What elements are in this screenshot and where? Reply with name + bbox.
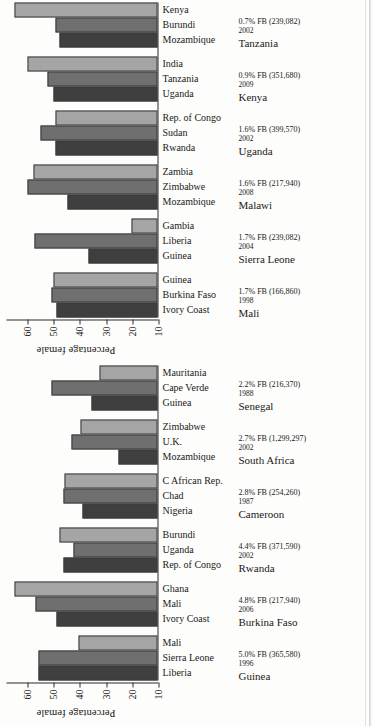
chart-top-bar-groups bbox=[6, 2, 157, 317]
axis-tick-label: 10 bbox=[153, 689, 163, 699]
category-label-text: Sierra Leone bbox=[162, 653, 213, 663]
category-label-text: Ghana bbox=[162, 584, 188, 594]
category-label: Rwanda bbox=[160, 140, 234, 155]
survey-country: Senegal bbox=[238, 400, 273, 411]
category-label-text: Mali bbox=[162, 599, 181, 609]
bar bbox=[55, 110, 157, 125]
bar bbox=[53, 272, 157, 287]
category-label: Zimbabwe bbox=[160, 419, 234, 434]
category-label-text: Kenya bbox=[162, 5, 188, 15]
bar bbox=[35, 596, 157, 611]
bar bbox=[91, 395, 157, 410]
axis-tick-label: 30 bbox=[101, 326, 111, 336]
survey-percent-foreign-born: 0.7% FB (239,082) bbox=[238, 17, 300, 25]
bar-group bbox=[6, 527, 157, 572]
survey-year: 2008 bbox=[238, 188, 253, 196]
category-label: Mali bbox=[160, 596, 234, 611]
axis-tick bbox=[27, 682, 28, 687]
bar bbox=[63, 557, 157, 572]
survey-block: Malawi20081.6% FB (217,940) bbox=[238, 164, 364, 209]
category-label-text: Guinea bbox=[162, 275, 191, 285]
bar bbox=[53, 86, 157, 101]
bar bbox=[88, 248, 157, 263]
category-label-group: NigeriaChadC African Rep. bbox=[160, 473, 234, 518]
category-label: Sierra Leone bbox=[160, 650, 234, 665]
category-label-text: Guinea bbox=[162, 251, 191, 261]
category-label: Sudan bbox=[160, 125, 234, 140]
category-label-group: UgandaTanzaniaIndia bbox=[160, 56, 234, 101]
category-label-group: MozambiqueBurundiKenya bbox=[160, 2, 234, 47]
survey-percent-foreign-born: 0.9% FB (351,680) bbox=[238, 71, 300, 79]
category-label: Burundi bbox=[160, 17, 234, 32]
axis-tick-label: 40 bbox=[74, 689, 84, 699]
bar bbox=[27, 56, 157, 71]
category-label-text: Zimbabwe bbox=[162, 422, 205, 432]
category-label: Guinea bbox=[160, 395, 234, 410]
bar bbox=[27, 179, 157, 194]
category-label-text: Ivory Coast bbox=[162, 305, 209, 315]
category-label: Ghana bbox=[160, 581, 234, 596]
category-label: Mozambique bbox=[160, 32, 234, 47]
bar bbox=[38, 665, 157, 680]
category-label: U.K. bbox=[160, 434, 234, 449]
bar bbox=[118, 449, 157, 464]
axis-tick bbox=[158, 682, 159, 687]
bar bbox=[131, 218, 157, 233]
category-label: Nigeria bbox=[160, 503, 234, 518]
bar bbox=[33, 164, 157, 179]
chart-top-plot-area: Percentage female 102030405060 Ivory Coa… bbox=[0, 0, 372, 363]
category-label-text: Burundi bbox=[162, 530, 195, 540]
chart-bottom-category-labels: LiberiaSierra LeoneMaliIvory CoastMaliGh… bbox=[160, 365, 234, 680]
bar bbox=[73, 542, 157, 557]
survey-block: Sierra Leone20041.7% FB (239,082) bbox=[238, 218, 364, 263]
category-label: Burkina Faso bbox=[160, 287, 234, 302]
survey-block: Mali19981.7% FB (166,860) bbox=[238, 272, 364, 317]
axis-tick-label: 60 bbox=[22, 689, 32, 699]
category-label: Ivory Coast bbox=[160, 611, 234, 626]
category-label: Zambia bbox=[160, 164, 234, 179]
category-label: Zimbabwe bbox=[160, 179, 234, 194]
survey-block: Uganda20021.6% FB (399,570) bbox=[238, 110, 364, 155]
category-label: Guinea bbox=[160, 248, 234, 263]
chart-bottom-y-axis: 102030405060 bbox=[6, 682, 158, 696]
chart-top-axis-label: Percentage female bbox=[0, 341, 150, 359]
survey-year: 2002 bbox=[238, 134, 253, 142]
bar bbox=[64, 473, 157, 488]
category-label-text: Guinea bbox=[162, 398, 191, 408]
survey-block: Kenya20090.9% FB (351,680) bbox=[238, 56, 364, 101]
category-label: Mali bbox=[160, 635, 234, 650]
chart-top-category-labels: Ivory CoastBurkina FasoGuineaGuineaLiber… bbox=[160, 2, 234, 317]
category-label-text: Zambia bbox=[162, 167, 193, 177]
category-label-text: Rep. of Congo bbox=[162, 113, 221, 123]
bar bbox=[56, 302, 157, 317]
category-label-text: Uganda bbox=[162, 89, 193, 99]
category-label-text: Ivory Coast bbox=[162, 614, 209, 624]
category-label: India bbox=[160, 56, 234, 71]
bar-group bbox=[6, 419, 157, 464]
chart-bottom-bars bbox=[6, 365, 158, 680]
axis-tick-label: 20 bbox=[127, 326, 137, 336]
bar-group bbox=[6, 365, 157, 410]
category-label-group: MozambiqueU.K.Zimbabwe bbox=[160, 419, 234, 464]
bar bbox=[38, 650, 157, 665]
survey-block: Senegal19882.2% FB (216,370) bbox=[238, 365, 364, 410]
survey-year: 2002 bbox=[238, 26, 253, 34]
survey-country: Cameroon bbox=[238, 508, 284, 519]
category-label: Gambia bbox=[160, 218, 234, 233]
scanned-figure-page: Percentage female 102030405060 Ivory Coa… bbox=[0, 0, 372, 726]
survey-year: 2002 bbox=[238, 443, 253, 451]
survey-block: Guinea19965.0% FB (365,580) bbox=[238, 635, 364, 680]
category-label-group: Ivory CoastMaliGhana bbox=[160, 581, 234, 626]
bar bbox=[67, 194, 157, 209]
bar-group bbox=[6, 164, 157, 209]
category-label-text: Chad bbox=[162, 491, 183, 501]
chart-top-y-axis: 102030405060 bbox=[6, 319, 158, 333]
bar-group bbox=[6, 581, 157, 626]
category-label-text: Gambia bbox=[162, 221, 194, 231]
chart-bottom-axis-line bbox=[6, 682, 158, 683]
survey-percent-foreign-born: 2.2% FB (216,370) bbox=[238, 380, 300, 388]
category-label-text: Mozambique bbox=[162, 35, 215, 45]
bar-group bbox=[6, 473, 157, 518]
bar bbox=[14, 581, 157, 596]
survey-percent-foreign-born: 2.8% FB (254,260) bbox=[238, 488, 300, 496]
